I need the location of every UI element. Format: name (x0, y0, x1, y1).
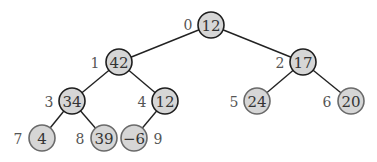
tree-node: 343 (45, 88, 85, 114)
node-index-label: 0 (184, 17, 193, 33)
node-index-label: 5 (230, 94, 239, 110)
tree-nodes: 12042117234312424520647398−69 (14, 12, 364, 151)
tree-node: 206 (323, 88, 364, 114)
node-index-label: 9 (154, 131, 163, 147)
node-index-label: 1 (91, 55, 100, 71)
node-index-label: 2 (276, 55, 285, 71)
node-value: 4 (37, 130, 47, 148)
node-value: 24 (247, 93, 266, 111)
node-index-label: 3 (45, 94, 54, 110)
heap-tree-diagram: 12042117234312424520647398−69 (0, 0, 377, 162)
node-value: 42 (109, 54, 128, 72)
tree-edges (42, 25, 351, 138)
node-value: −6 (123, 130, 145, 148)
node-value: 17 (293, 54, 312, 72)
node-value: 39 (94, 130, 113, 148)
tree-node: 421 (91, 49, 132, 75)
tree-node: 245 (230, 88, 270, 114)
tree-node: 398 (76, 125, 117, 151)
tree-node: −69 (121, 125, 162, 151)
node-value: 12 (155, 93, 174, 111)
node-index-label: 6 (323, 94, 332, 110)
tree-edge (119, 25, 211, 62)
tree-node: 124 (138, 88, 178, 114)
node-index-label: 4 (138, 94, 147, 110)
node-index-label: 8 (76, 131, 85, 147)
tree-node: 47 (14, 125, 55, 151)
node-value: 34 (62, 93, 81, 111)
node-value: 20 (341, 93, 360, 111)
node-value: 12 (201, 17, 220, 35)
tree-edge (211, 25, 303, 62)
node-index-label: 7 (14, 131, 23, 147)
